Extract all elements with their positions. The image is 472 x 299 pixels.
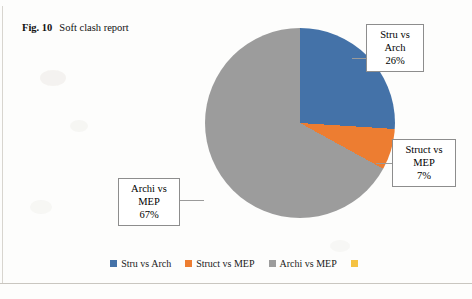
page-border-left	[2, 6, 3, 284]
callout-struct-mep-line1: Struct vs	[398, 143, 450, 156]
figure-caption: Fig. 10Soft clash report	[22, 22, 129, 33]
callout-stru-line1: Stru vs	[372, 28, 418, 41]
callout-stru-vs-arch: Stru vs Arch 26%	[366, 24, 424, 72]
legend-item[interactable]: Stru vs Arch	[110, 258, 171, 269]
legend-label: Stru vs Arch	[121, 258, 171, 269]
legend-label: Archi vs MEP	[280, 258, 337, 269]
page-border-bottom	[0, 283, 472, 284]
scan-artifact	[40, 70, 66, 86]
figure-caption-text: Soft clash report	[59, 22, 128, 33]
legend-item[interactable]: Archi vs MEP	[269, 258, 337, 269]
callout-struct-mep-line2: MEP	[398, 156, 450, 169]
chart-legend: Stru vs ArchStruct vs MEPArchi vs MEP	[0, 258, 472, 269]
scan-artifact	[330, 240, 350, 252]
legend-swatch	[110, 260, 117, 267]
callout-archi-value: 67%	[124, 208, 174, 221]
scan-artifact	[30, 200, 52, 214]
legend-swatch	[185, 260, 192, 267]
callout-struct-mep-value: 7%	[398, 169, 450, 182]
callout-archi-line1: Archi vs	[124, 182, 174, 195]
callout-archi-line2: MEP	[124, 195, 174, 208]
callout-struct-vs-mep: Struct vs MEP 7%	[392, 139, 456, 187]
callout-archi-vs-mep: Archi vs MEP 67%	[118, 178, 180, 226]
legend-swatch	[351, 260, 358, 267]
figure-page: Fig. 10Soft clash report Stru vs Arch 26…	[0, 0, 472, 299]
callout-stru-line2: Arch	[372, 41, 418, 54]
callout-stru-value: 26%	[372, 54, 418, 67]
legend-item[interactable]	[351, 260, 362, 267]
legend-swatch	[269, 260, 276, 267]
legend-label: Struct vs MEP	[196, 258, 254, 269]
legend-item[interactable]: Struct vs MEP	[185, 258, 254, 269]
leader-line-archi	[180, 200, 204, 201]
scan-artifact	[70, 120, 88, 132]
figure-number: Fig. 10	[22, 22, 52, 33]
